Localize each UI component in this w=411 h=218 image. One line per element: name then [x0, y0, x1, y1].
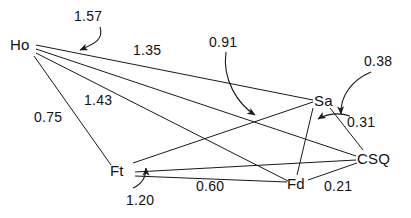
leader-arrow-1-20 — [133, 168, 146, 188]
edge-ho-fd — [36, 53, 288, 181]
node-fd[interactable]: Fd — [287, 175, 305, 192]
edge-label-ft-csq: 1.20 — [126, 192, 154, 208]
path-diagram: Ho Sa Ft Fd CSQ 1.57 1.35 1.43 0.75 0.91… — [0, 0, 411, 218]
node-sa[interactable]: Sa — [314, 92, 333, 109]
leader-arrow-1-57 — [80, 27, 101, 50]
edge-label-ho-fd: 1.43 — [84, 92, 112, 108]
leader-arrow-0-38 — [341, 72, 371, 114]
edge-label-ho-ft: 0.75 — [34, 109, 62, 125]
edge-label-ft-sa: 0.91 — [209, 34, 237, 50]
edge-label-csq-sa: 0.31 — [347, 114, 375, 130]
edge-ho-sa — [36, 45, 313, 100]
edge-sa-fd — [297, 108, 313, 175]
node-ho[interactable]: Ho — [10, 36, 30, 53]
leader-arrow-0-91 — [225, 52, 255, 115]
edge-label-ho-sa: 1.57 — [74, 8, 102, 24]
edge-label-ho-csq: 1.35 — [133, 42, 161, 58]
edge-ft-csq — [135, 160, 356, 172]
node-ft[interactable]: Ft — [110, 162, 124, 179]
leader-arrow-0-31 — [318, 114, 350, 119]
edge-label-ft-fd: 0.60 — [196, 178, 224, 194]
node-csq[interactable]: CSQ — [357, 150, 390, 167]
edge-label-sa-csq: 0.38 — [364, 53, 392, 69]
edge-label-fd-csq: 0.21 — [324, 178, 352, 194]
